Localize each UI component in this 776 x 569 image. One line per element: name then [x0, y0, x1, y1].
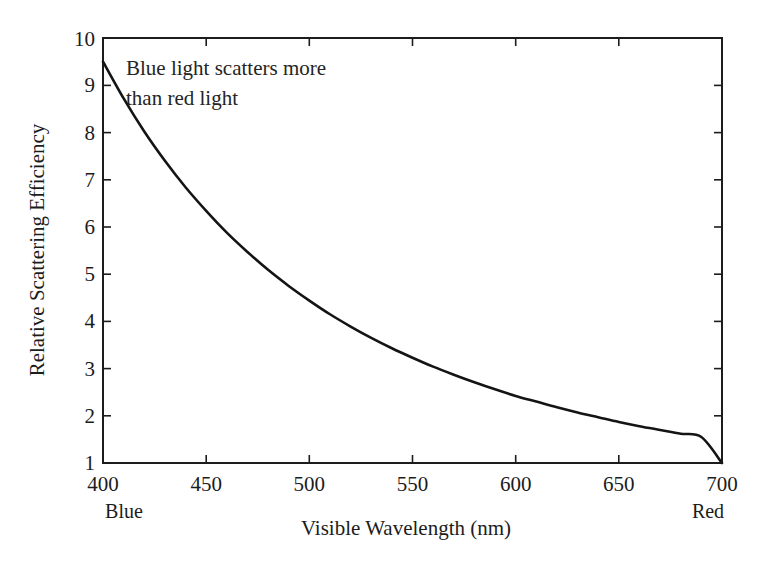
chart-canvas: 1 2 3 4 5 6 7 8 9 10 400 450 500 550 600… [0, 0, 776, 569]
x-tick-label: 400 [87, 472, 119, 496]
y-axis-ticks [103, 38, 111, 463]
y-tick-label: 7 [85, 168, 96, 192]
y-tick-label: 5 [85, 262, 96, 286]
annotation-line-1: Blue light scatters more [126, 56, 326, 80]
annotation-line-2: than red light [126, 86, 238, 110]
y-tick-labels: 1 2 3 4 5 6 7 8 9 10 [74, 27, 96, 475]
x-tick-label: 700 [706, 472, 738, 496]
x-axis-min-label-blue: Blue [105, 500, 143, 522]
x-axis-title: Visible Wavelength (nm) [301, 516, 511, 540]
curve-annotation: Blue light scatters more than red light [126, 56, 326, 110]
y-tick-label: 2 [85, 404, 96, 428]
y-axis-ticks-right [714, 85, 722, 415]
y-tick-label: 4 [85, 309, 96, 333]
y-tick-label: 3 [85, 357, 96, 381]
y-tick-label: 10 [74, 27, 95, 51]
y-tick-label: 9 [85, 73, 96, 97]
x-tick-label: 450 [190, 472, 222, 496]
x-axis-ticks-top [206, 38, 619, 46]
x-tick-label: 600 [500, 472, 532, 496]
y-tick-label: 6 [85, 215, 96, 239]
y-tick-label: 8 [85, 121, 96, 145]
x-tick-labels: 400 450 500 550 600 650 700 [87, 472, 738, 496]
x-axis-max-label-red: Red [692, 500, 724, 522]
x-tick-label: 650 [603, 472, 635, 496]
data-curve-rayleigh [103, 62, 722, 463]
x-tick-label: 550 [397, 472, 429, 496]
x-tick-label: 500 [294, 472, 326, 496]
x-axis-ticks [103, 455, 722, 463]
chart-figure: 1 2 3 4 5 6 7 8 9 10 400 450 500 550 600… [0, 0, 776, 569]
y-axis-title: Relative Scattering Efficiency [25, 123, 49, 376]
